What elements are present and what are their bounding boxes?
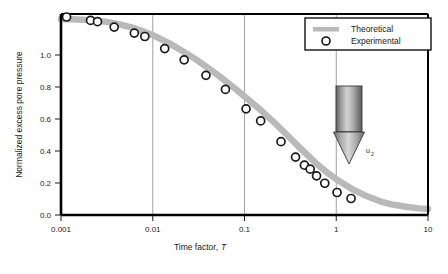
y-axis-tick-labels: 1.0 0.8 0.6 0.4 0.2 0.0 bbox=[40, 51, 52, 220]
data-point-experimental bbox=[257, 117, 265, 125]
chart-canvas: 1.0 0.8 0.6 0.4 0.2 0.0 0.001 0.01 0.1 1… bbox=[0, 0, 448, 274]
data-point-experimental bbox=[347, 195, 355, 203]
x-tick-label: 1 bbox=[334, 225, 339, 234]
data-point-experimental bbox=[63, 13, 71, 21]
cone-u2-subscript: 2 bbox=[371, 151, 374, 157]
y-axis-title: Normalized excess pore pressure bbox=[14, 51, 24, 178]
legend-marker-experimental bbox=[322, 37, 330, 45]
x-tick-label: 0.001 bbox=[51, 225, 72, 234]
data-point-experimental bbox=[321, 179, 329, 187]
data-point-experimental bbox=[333, 188, 341, 196]
y-tick-label: 1.0 bbox=[40, 51, 52, 60]
x-tick-label: 0.01 bbox=[145, 225, 161, 234]
figure-container: 1.0 0.8 0.6 0.4 0.2 0.0 0.001 0.01 0.1 1… bbox=[0, 0, 448, 274]
legend: Theoretical Experimental bbox=[305, 18, 431, 50]
data-point-experimental bbox=[110, 23, 118, 31]
y-tick-label: 0.0 bbox=[40, 211, 52, 220]
data-point-experimental bbox=[306, 165, 314, 173]
data-point-experimental bbox=[202, 71, 210, 79]
data-point-experimental bbox=[94, 18, 102, 26]
data-point-experimental bbox=[161, 45, 169, 53]
data-point-experimental bbox=[130, 29, 138, 37]
y-tick-label: 0.4 bbox=[40, 147, 52, 156]
x-axis-title-text: Time factor, bbox=[174, 242, 218, 252]
x-axis-title-symbol: T bbox=[221, 242, 227, 252]
legend-label-theoretical: Theoretical bbox=[351, 24, 393, 34]
x-axis-title: Time factor, T bbox=[174, 242, 227, 252]
y-tick-label: 0.8 bbox=[40, 83, 52, 92]
y-tick-label: 0.6 bbox=[40, 115, 52, 124]
data-point-experimental bbox=[141, 33, 149, 41]
y-tick-label: 0.2 bbox=[40, 179, 52, 188]
legend-label-experimental: Experimental bbox=[351, 36, 401, 46]
data-point-experimental bbox=[221, 85, 229, 93]
legend-swatch-theoretical bbox=[313, 27, 339, 32]
data-point-experimental bbox=[242, 105, 250, 113]
x-tick-label: 0.1 bbox=[239, 225, 251, 234]
data-point-experimental bbox=[277, 138, 285, 146]
data-point-experimental bbox=[292, 153, 300, 161]
x-axis-tick-labels: 0.001 0.01 0.1 1 10 bbox=[51, 225, 433, 234]
data-point-experimental bbox=[313, 172, 321, 180]
cone-u2-label: u bbox=[366, 147, 370, 154]
x-tick-label: 10 bbox=[424, 225, 433, 234]
data-point-experimental bbox=[180, 56, 188, 64]
